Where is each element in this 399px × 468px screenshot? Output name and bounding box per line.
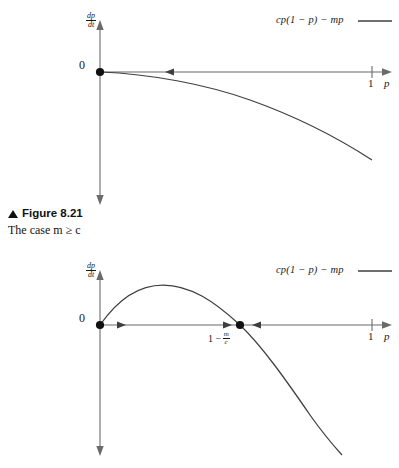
figure-caption: Figure 8.21 The case m ≥ c [8, 207, 248, 237]
equilibrium-label-fraction: m c [223, 331, 230, 347]
flow-arrow-left [165, 69, 174, 76]
equilibrium-label: 1 − m c [208, 331, 230, 347]
curve-cp1p-mp [100, 285, 342, 455]
y-axis-label: dp dt [86, 262, 96, 279]
equilibrium-dot-origin [96, 68, 104, 76]
equilibrium-label-lead: 1 − [208, 333, 221, 344]
x-axis [100, 319, 392, 331]
flow-arrow-right-1 [117, 322, 126, 329]
caption-subtitle: The case m ≥ c [8, 223, 248, 237]
y-axis [96, 20, 103, 205]
legend-label: cp(1 − p) − mp [276, 264, 344, 275]
y-axis-label: dp dt [86, 12, 96, 29]
up-triangle-icon [8, 210, 18, 218]
origin-label: 0 [79, 58, 85, 73]
x-tick-one-label: 1 [368, 330, 374, 342]
x-tick-one-label: 1 [368, 77, 374, 89]
legend-label: cp(1 − p) − mp [276, 14, 344, 25]
x-axis-label: p [384, 330, 390, 342]
caption-title-row: Figure 8.21 [8, 207, 248, 221]
chart-top-canvas [0, 0, 399, 205]
chart-top: dp dt 0 1 p cp(1 − p) − mp [0, 0, 399, 205]
equilibrium-label-denominator: c [223, 339, 230, 346]
x-axis-label: p [384, 77, 390, 89]
equilibrium-dot-interior [236, 321, 244, 329]
figure-8-21: dp dt 0 1 p cp(1 − p) − mp Figure 8.21 T… [0, 0, 399, 468]
flow-arrow-left-1 [252, 322, 261, 329]
chart-bottom: dp dt 0 1 − m c 1 p cp(1 − p) − mp [0, 250, 399, 468]
caption-title: Figure 8.21 [22, 207, 83, 221]
curve-cp1p-mp [100, 72, 372, 160]
y-axis [96, 270, 103, 456]
chart-bottom-canvas [0, 250, 399, 468]
origin-label: 0 [79, 311, 85, 326]
flow-arrow-right-2 [223, 322, 232, 329]
equilibrium-dot-origin [96, 321, 104, 329]
y-axis-denominator: dt [86, 21, 96, 29]
y-axis-denominator: dt [86, 271, 96, 279]
